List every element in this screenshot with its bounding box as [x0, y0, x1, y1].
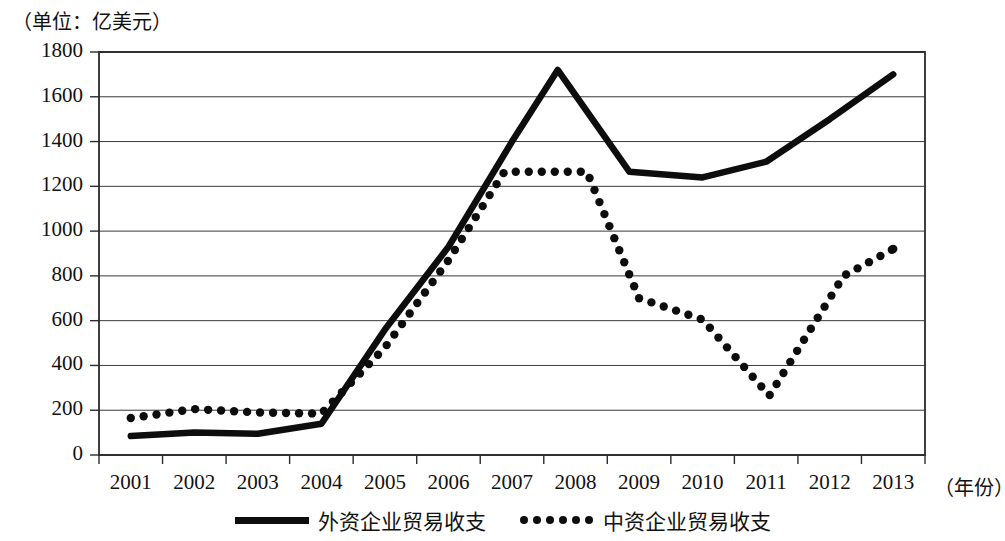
y-axis-tick-label: 1600: [41, 83, 83, 108]
dotted-series-dot: [585, 174, 593, 182]
dotted-series-dot: [714, 333, 722, 341]
dotted-series-dot: [382, 341, 390, 349]
y-axis-tick-label: 1000: [41, 217, 83, 242]
legend-label-domestic: 中资企业贸易收支: [603, 505, 771, 535]
x-axis-tick-label: 2012: [796, 470, 864, 495]
dotted-series-dot: [512, 168, 520, 176]
dotted-series-dot: [814, 314, 822, 322]
dotted-series-dot: [672, 306, 680, 314]
dotted-series-dot: [842, 270, 850, 278]
dotted-series-dot: [564, 168, 572, 176]
x-axis-title: （年份）: [934, 472, 1005, 501]
dotted-series-dot: [374, 351, 382, 359]
x-axis-tick-label: 2006: [414, 470, 482, 495]
x-axis-tick-label: 2013: [859, 470, 927, 495]
dotted-series-dot: [256, 408, 264, 416]
dotted-series-dot: [478, 202, 486, 210]
dotted-series-dot: [620, 258, 628, 266]
dotted-series-dot: [786, 358, 794, 366]
x-axis-tick-label: 2001: [97, 470, 165, 495]
legend-item-foreign: 外资企业贸易收支: [235, 505, 486, 535]
y-axis-tick-label: 1800: [41, 38, 83, 63]
dotted-series-dot: [757, 382, 765, 390]
dotted-series-dot: [347, 379, 355, 387]
dotted-series-dot: [889, 245, 897, 253]
dotted-series-dot: [779, 369, 787, 377]
dotted-series-dot: [827, 291, 835, 299]
legend-dotted-line-icon: [520, 516, 594, 524]
dotted-series-dot: [793, 347, 801, 355]
dotted-series-dot: [356, 369, 364, 377]
dotted-series-dot: [865, 258, 873, 266]
x-axis-tick-label: 2002: [160, 470, 228, 495]
dotted-series-dot: [165, 408, 173, 416]
dotted-series-dot: [605, 222, 613, 230]
dotted-series-dot: [436, 267, 444, 275]
y-axis-tick-label: 200: [52, 396, 84, 421]
dotted-series-dot: [595, 198, 603, 206]
x-axis-tick-label: 2009: [605, 470, 673, 495]
dotted-series-dot: [499, 169, 507, 177]
dotted-series-dot: [740, 363, 748, 371]
dotted-series-dot: [876, 252, 884, 260]
dotted-series-dot: [551, 168, 559, 176]
dotted-series-dot: [731, 353, 739, 361]
chart-svg: [0, 0, 1005, 541]
dotted-series-dot: [625, 270, 633, 278]
y-axis-ticks: [90, 52, 99, 455]
dotted-series-dot: [230, 407, 238, 415]
chart-plot-area: 020040060080010001200140016001800 200120…: [0, 0, 1005, 541]
dotted-series-dot: [444, 257, 452, 265]
dotted-series-dot: [600, 210, 608, 218]
legend-item-domestic: 中资企业贸易收支: [520, 505, 771, 535]
dotted-series-dot: [390, 330, 398, 338]
dotted-series-dot: [204, 406, 212, 414]
dotted-series-dot: [338, 388, 346, 396]
chart-root: （单位：亿美元） 0200400600800100012001400160018…: [0, 0, 1005, 541]
plot-border: [99, 52, 925, 455]
dotted-series-dot: [820, 302, 828, 310]
dotted-series-dot: [706, 324, 714, 332]
y-axis-tick-label: 800: [52, 262, 84, 287]
dotted-series-dot: [421, 288, 429, 296]
dotted-series-dot: [329, 397, 337, 405]
y-axis-tick-label: 1400: [41, 128, 83, 153]
dotted-series-dot: [577, 168, 585, 176]
x-axis-tick-label: 2005: [351, 470, 419, 495]
x-axis-tick-label: 2003: [224, 470, 292, 495]
x-axis-tick-label: 2007: [478, 470, 546, 495]
dotted-series-dot: [152, 410, 160, 418]
legend-label-foreign: 外资企业贸易收支: [318, 505, 486, 535]
dotted-series-dot: [647, 298, 655, 306]
dotted-series-dot: [295, 409, 303, 417]
dotted-series-dot: [749, 372, 757, 380]
dotted-series-dot: [684, 311, 692, 319]
dotted-series-dot: [492, 180, 500, 188]
y-axis-tick-label: 1200: [41, 172, 83, 197]
dotted-series-dot: [191, 405, 199, 413]
dotted-series-dot: [428, 278, 436, 286]
dotted-series-dot: [766, 391, 774, 399]
dotted-series-dot: [660, 302, 668, 310]
x-axis-ticks: [99, 455, 925, 464]
dotted-series-dot: [800, 336, 808, 344]
dotted-series-dot: [485, 191, 493, 199]
dotted-series-dot: [269, 409, 277, 417]
dotted-series-dot: [217, 406, 225, 414]
dotted-series-dot: [451, 246, 459, 254]
y-axis-tick-label: 0: [73, 441, 84, 466]
dotted-series-dot: [772, 380, 780, 388]
dotted-series-dot: [308, 409, 316, 417]
dotted-series-dot: [853, 264, 861, 272]
dotted-series-dot: [525, 168, 533, 176]
dotted-series-dot: [243, 408, 251, 416]
dotted-series-dot: [807, 325, 815, 333]
dotted-series-dot: [139, 412, 147, 420]
dotted-series-dot: [615, 246, 623, 254]
dotted-series-dot: [538, 168, 546, 176]
x-axis-tick-label: 2004: [287, 470, 355, 495]
y-axis-tick-label: 400: [52, 351, 84, 376]
dotted-series-dot: [465, 224, 473, 232]
x-axis-tick-label: 2010: [669, 470, 737, 495]
y-axis-tick-label: 600: [52, 307, 84, 332]
